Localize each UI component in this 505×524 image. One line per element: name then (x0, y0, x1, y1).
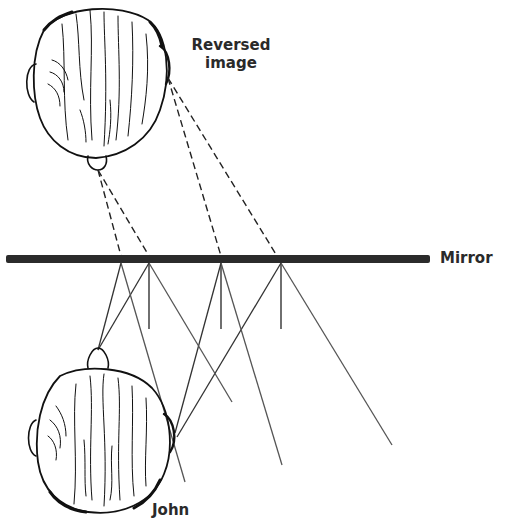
mirror-label: Mirror (440, 249, 493, 267)
incident-ray-2 (98, 263, 149, 350)
virtual-ray-1 (98, 170, 121, 256)
virtual-rays (98, 78, 277, 256)
reversed-image-label-line2: image (186, 54, 276, 72)
incident-ray-3 (175, 263, 221, 433)
mirror-bar (6, 255, 430, 263)
reflected-rays (121, 263, 392, 482)
reversed-image-label: Reversed image (186, 36, 276, 72)
diagram-canvas (0, 0, 505, 524)
reversed-head-image (27, 9, 170, 170)
reversed-image-label-line1: Reversed (186, 36, 276, 54)
john-label: John (152, 501, 189, 519)
virtual-ray-4 (168, 78, 277, 256)
virtual-ray-3 (168, 78, 221, 256)
reflected-ray-4 (281, 263, 392, 445)
virtual-ray-2 (98, 170, 149, 256)
reflected-ray-2 (149, 263, 232, 402)
mirror-diagram: Reversed image Mirror John (0, 0, 505, 524)
reflected-ray-3 (221, 263, 282, 465)
incident-rays (98, 263, 281, 437)
reflected-ray-1 (121, 263, 185, 482)
incident-ray-1 (98, 263, 121, 350)
